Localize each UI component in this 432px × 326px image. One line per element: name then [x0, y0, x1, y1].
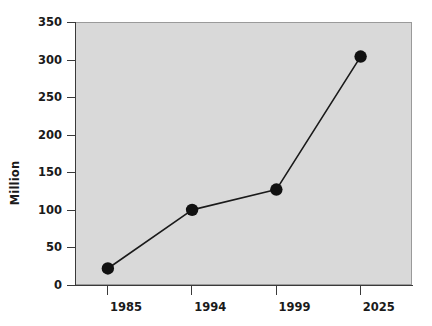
y-tick-label-200: 200: [2, 128, 62, 142]
y-tick-label-0: 0: [2, 278, 62, 292]
y-tick-150: [67, 172, 76, 173]
y-tick-50: [67, 247, 76, 248]
x-tick-label-1994: 1994: [175, 300, 245, 314]
x-axis-line: [75, 285, 413, 286]
x-tick-1999: [276, 286, 277, 295]
y-tick-label-100: 100: [2, 203, 62, 217]
y-tick-100: [67, 210, 76, 211]
y-tick-0: [67, 285, 76, 286]
y-tick-label-50: 50: [2, 240, 62, 254]
data-point-1994: [186, 204, 198, 216]
y-tick-label-300: 300: [2, 53, 62, 67]
data-point-2025: [354, 50, 366, 62]
x-tick-label-2025: 2025: [344, 300, 414, 314]
x-tick-label-1999: 1999: [260, 300, 330, 314]
x-tick-label-1985: 1985: [91, 300, 161, 314]
x-tick-1985: [107, 286, 108, 295]
x-tick-2025: [360, 286, 361, 295]
y-tick-350: [67, 22, 76, 23]
x-tick-1994: [191, 286, 192, 295]
y-tick-label-350: 350: [2, 15, 62, 29]
data-point-1985: [102, 262, 114, 274]
data-point-1999: [270, 183, 282, 195]
y-tick-200: [67, 135, 76, 136]
y-tick-300: [67, 60, 76, 61]
y-tick-label-250: 250: [2, 90, 62, 104]
y-axis-line: [75, 22, 76, 286]
line-chart: Million 050100150200250300350 1985199419…: [0, 0, 432, 326]
y-tick-label-150: 150: [2, 165, 62, 179]
y-tick-250: [67, 97, 76, 98]
